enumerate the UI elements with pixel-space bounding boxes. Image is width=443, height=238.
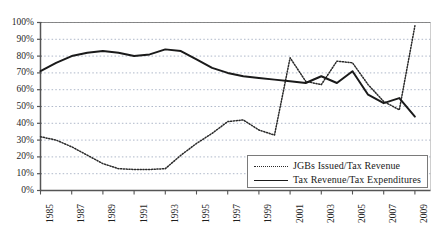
y-axis-label: 80% [0,51,34,61]
chart-legend: JGBs Issued/Tax Revenue Tax Revenue/Tax … [247,155,428,188]
solid-line-swatch-icon [254,175,288,185]
legend-item-tax-revenue-tax-expenditures: Tax Revenue/Tax Expenditures [248,172,427,187]
x-axis-label: 2007 [388,204,398,223]
x-axis-label: 2003 [326,204,336,223]
x-axis-label: 2001 [295,204,305,223]
chart-plot-area [0,0,443,238]
legend-label: JGBs Issued/Tax Revenue [293,160,400,171]
chart-container: 0%10%20%30%40%50%60%70%80%90%100% 198519… [0,0,443,238]
y-axis-label: 30% [0,135,34,145]
y-axis-label: 20% [0,151,34,161]
x-axis-label: 2009 [419,204,429,223]
y-axis-label: 70% [0,67,34,77]
x-axis-label: 1997 [232,204,242,223]
legend-label: Tax Revenue/Tax Expenditures [293,174,421,185]
x-axis-label: 2005 [357,204,367,223]
y-axis-label: 60% [0,84,34,94]
y-axis-label: 40% [0,118,34,128]
data-series-group [41,26,415,170]
x-axis-label: 1993 [170,204,180,223]
y-axis-label: 10% [0,168,34,178]
x-axis-label: 1989 [107,204,117,223]
x-axis-label: 1999 [263,204,273,223]
x-axis-label: 1991 [139,204,149,223]
x-axis-label: 1995 [201,204,211,223]
y-axis-label: 50% [0,101,34,111]
y-axis-label: 90% [0,34,34,44]
x-axis-label: 1985 [45,204,55,223]
y-axis-label: 0% [0,185,34,195]
dotted-line-swatch-icon [254,161,288,171]
y-axis-label: 100% [0,17,34,27]
x-axis-label: 1987 [76,204,86,223]
legend-item-jgbs-issued-tax-revenue: JGBs Issued/Tax Revenue [248,158,427,173]
